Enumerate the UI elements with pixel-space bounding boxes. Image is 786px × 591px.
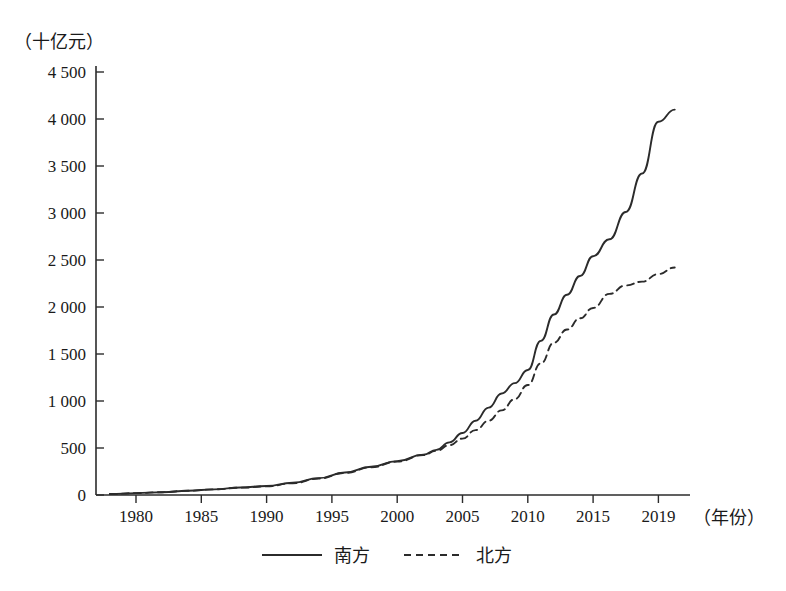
y-tick-label: 4 000: [48, 110, 86, 129]
line-chart: （十亿元） 05001 0001 5002 0002 5003 0003 500…: [0, 0, 786, 591]
x-tick-label: 2015: [576, 507, 610, 526]
x-axis-tick-marks: [136, 495, 658, 503]
y-axis-tick-marks: [96, 72, 104, 495]
chart-legend: 南方 北方: [262, 545, 512, 566]
x-tick-label: 1990: [250, 507, 284, 526]
x-tick-label: 1980: [119, 507, 153, 526]
y-tick-label: 1 500: [48, 345, 86, 364]
x-tick-label: 2005: [446, 507, 480, 526]
legend-label-north: 北方: [476, 545, 512, 566]
x-tick-label: 2010: [511, 507, 545, 526]
y-axis-unit-label: （十亿元）: [14, 31, 104, 52]
y-tick-label: 2 000: [48, 298, 86, 317]
y-tick-label: 3 000: [48, 204, 86, 223]
x-tick-label: 2000: [380, 507, 414, 526]
legend-label-south: 南方: [334, 545, 370, 566]
series-line-north: [110, 268, 675, 495]
chart-container: （十亿元） 05001 0001 5002 0002 5003 0003 500…: [0, 0, 786, 591]
y-tick-label: 1 000: [48, 392, 86, 411]
y-tick-label: 4 500: [48, 63, 86, 82]
y-tick-label: 0: [78, 486, 87, 505]
x-tick-label: 2019: [641, 507, 675, 526]
y-tick-label: 500: [61, 439, 87, 458]
x-tick-label: 1995: [315, 507, 349, 526]
y-tick-label: 2 500: [48, 251, 86, 270]
series-line-south: [110, 110, 675, 494]
x-tick-label: 1985: [184, 507, 218, 526]
y-axis-tick-labels: 05001 0001 5002 0002 5003 0003 5004 0004…: [48, 63, 86, 505]
y-tick-label: 3 500: [48, 157, 86, 176]
x-axis-title: （年份）: [693, 507, 765, 528]
x-axis-tick-labels: 198019851990199520002005201020152019: [119, 507, 675, 526]
